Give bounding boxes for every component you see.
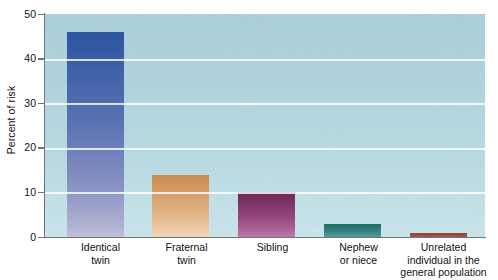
y-tick-label-10: 10 — [6, 187, 36, 198]
y-axis-title: Percent of risk — [0, 0, 22, 240]
x-tick-label-line: general population — [389, 266, 498, 279]
y-tick-label-20: 20 — [6, 142, 36, 153]
x-tick-label-line: twin — [131, 254, 242, 267]
y-tick-label-50: 50 — [6, 9, 36, 20]
y-axis-line — [44, 13, 45, 238]
gridline-10 — [45, 192, 485, 194]
bar-fraternal-twin — [152, 175, 209, 237]
bar-nephew-or-niece — [324, 224, 381, 237]
y-tick-mark-0 — [38, 237, 44, 238]
y-tick-mark-20 — [38, 147, 44, 148]
y-tick-mark-50 — [38, 14, 44, 15]
y-tick-mark-30 — [38, 103, 44, 104]
x-tick-label-unrelated-individual: Unrelated individual in the general popu… — [389, 241, 498, 279]
y-tick-label-40: 40 — [6, 53, 36, 64]
y-tick-label-0: 0 — [6, 232, 36, 243]
plot-area — [45, 14, 485, 237]
bar-identical-twin — [67, 32, 124, 237]
gridline-30 — [45, 103, 485, 105]
y-tick-label-30: 30 — [6, 98, 36, 109]
x-tick-label-line: individual in the — [389, 254, 498, 267]
gridline-40 — [45, 59, 485, 61]
x-tick-label-line: Unrelated — [389, 241, 498, 254]
gridline-20 — [45, 148, 485, 150]
y-tick-mark-10 — [38, 192, 44, 193]
y-tick-mark-40 — [38, 58, 44, 59]
bar-unrelated-individual — [410, 233, 467, 238]
bar-sibling — [238, 192, 295, 237]
bar-chart-figure: Percent of risk 50 40 30 20 10 0 Identic… — [0, 0, 498, 280]
